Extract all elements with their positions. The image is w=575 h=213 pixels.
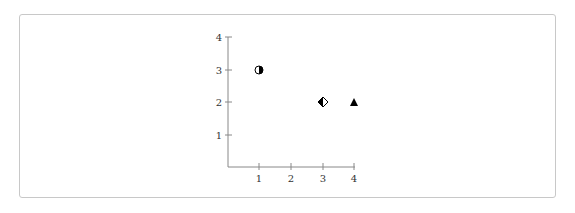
- triangle-filled-marker: [350, 98, 358, 106]
- x-tick-label-2: 2: [288, 173, 294, 184]
- y-tick-label-2: 2: [216, 97, 222, 108]
- y-tick-label-3: 3: [216, 65, 222, 76]
- y-ticks: 4 3 2 1: [216, 32, 232, 141]
- x-ticks: 1 2 3 4: [256, 163, 357, 184]
- circle-half-filled-marker: [255, 66, 263, 74]
- x-tick-label-1: 1: [256, 173, 262, 184]
- scatter-plot: 4 3 2 1 1 2 3 4: [0, 0, 575, 213]
- x-tick-label-4: 4: [351, 173, 357, 184]
- y-tick-label-1: 1: [216, 130, 222, 141]
- y-tick-label-4: 4: [216, 32, 222, 43]
- x-tick-label-3: 3: [320, 173, 326, 184]
- diamond-half-filled-marker: [318, 97, 328, 107]
